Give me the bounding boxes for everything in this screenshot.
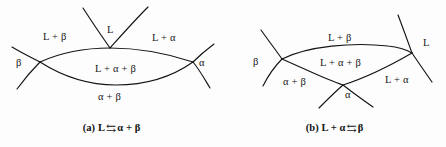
left-node-lower-branch-b [263,59,282,86]
panel-b: L + β L β L + α + β α + β L + α α (b) L … [223,0,446,147]
right-node-upper-branch-b [398,15,412,53]
panel-a: L L + β L + α β α L + α + β α + β (a) L⇆… [0,0,223,147]
label-a-center: L + α + β [95,64,136,75]
liquidus-upper-curve [40,48,193,62]
caption-a-right: α + β [117,122,140,133]
equilibrium-arrows-icon: ⇆ [105,121,117,136]
label-b-lower-right: L + α [385,75,409,86]
caption-b-left: L + α [322,122,346,133]
label-b-bottom-center: α [345,90,351,101]
caption-b: (b) L + α⇆β [223,120,446,135]
caption-a: (a) L⇆α + β [0,120,223,135]
top-junction-left-branch [83,8,110,48]
figure-canvas: L L + β L + α β α L + α + β α + β (a) L⇆… [0,0,446,147]
label-a-far-right: α [199,58,205,69]
caption-b-right: β [358,122,364,133]
label-b-lower-left: α + β [283,77,306,88]
label-b-far-left: β [253,57,259,68]
left-node-upper-branch-b [261,30,282,59]
label-a-upper-left: L + β [43,32,67,43]
label-a-far-left: β [16,58,22,69]
label-b-far-right: L [423,38,430,49]
label-b-center: L + α + β [320,58,361,69]
bottom-node-left-branch-b [319,85,343,108]
right-node-lower-branch-b [412,53,432,82]
label-a-top-center: L [107,25,114,36]
caption-a-left: L [98,122,105,133]
label-a-upper-right: L + α [152,33,176,44]
label-b-top-center: L + β [328,33,352,44]
equilibrium-arrows-icon-b: ⇆ [346,121,358,136]
label-a-bottom: α + β [98,92,121,103]
caption-b-prefix: (b) [306,122,319,133]
caption-a-prefix: (a) [83,122,96,133]
top-junction-right-branch [110,7,148,48]
